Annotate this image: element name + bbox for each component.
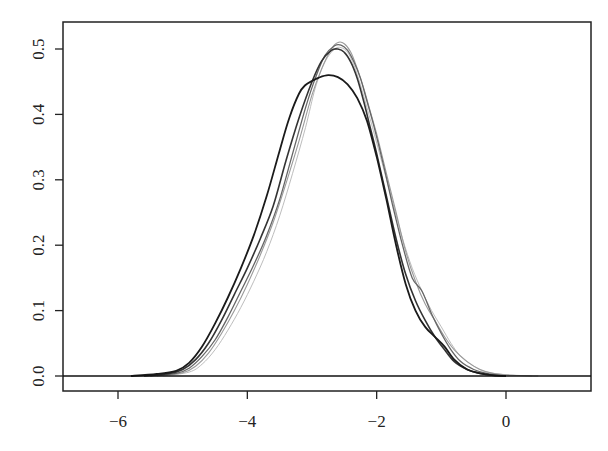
density-curve [131, 75, 506, 376]
density-chart: −6−4−20 0.00.10.20.30.40.5 [0, 0, 608, 451]
x-tick-label: −6 [109, 412, 127, 431]
density-curve [150, 44, 506, 376]
plot-frame [63, 22, 591, 391]
y-tick-label: 0.2 [29, 235, 48, 256]
density-curve [144, 49, 506, 376]
y-tick-label: 0.1 [29, 300, 48, 321]
y-tick-label: 0.3 [29, 169, 48, 190]
y-tick-label: 0.5 [29, 38, 48, 59]
density-curves [131, 42, 538, 376]
y-tick-label: 0.0 [29, 365, 48, 386]
x-tick-label: 0 [502, 412, 511, 431]
y-tick-label: 0.4 [29, 103, 48, 125]
x-tick-label: −4 [238, 412, 257, 431]
y-axis: 0.00.10.20.30.40.5 [29, 38, 63, 386]
x-tick-label: −2 [368, 412, 386, 431]
x-axis: −6−4−20 [109, 391, 510, 431]
